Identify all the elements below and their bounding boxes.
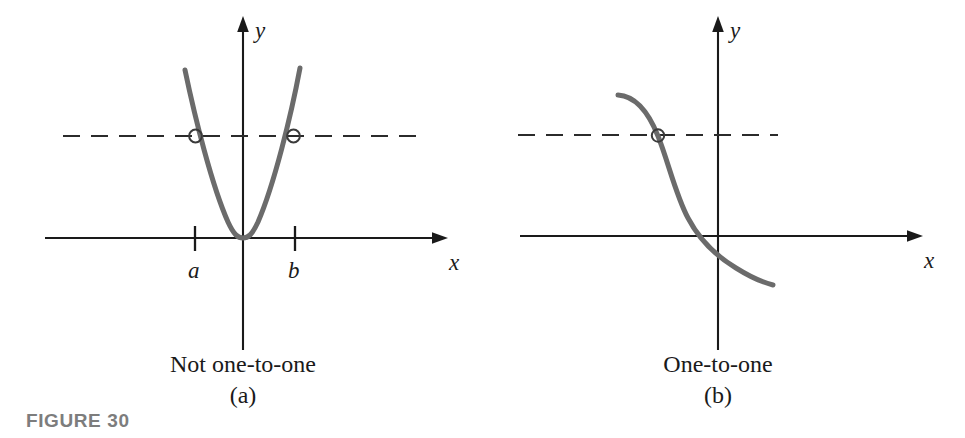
figure-container: y x a b Not one-to-one (a)	[0, 0, 965, 438]
panel-a-x-axis-label: x	[448, 250, 460, 275]
panel-a-y-axis	[237, 16, 249, 350]
panel-a-letter: (a)	[230, 382, 257, 408]
panel-a-y-axis-label: y	[253, 18, 266, 43]
panel-a-group: y x a b Not one-to-one (a)	[45, 16, 460, 408]
figure-number-label: FIGURE 30	[26, 410, 130, 431]
panel-a-tick-label-b: b	[288, 258, 300, 283]
figure-graphic: y x a b Not one-to-one (a)	[0, 0, 965, 438]
panel-b-y-axis-label: y	[728, 18, 741, 43]
panel-b-group: y x One-to-one (b)	[518, 16, 935, 408]
panel-b-letter: (b)	[704, 382, 732, 408]
panel-a-caption: Not one-to-one	[170, 351, 316, 377]
panel-a-tick-label-a: a	[188, 258, 200, 283]
panel-b-x-axis	[520, 230, 923, 242]
panel-b-y-axis	[712, 16, 724, 350]
panel-b-caption: One-to-one	[663, 351, 772, 377]
panel-b-x-axis-label: x	[923, 248, 935, 273]
panel-b-decreasing-curve	[618, 95, 773, 285]
